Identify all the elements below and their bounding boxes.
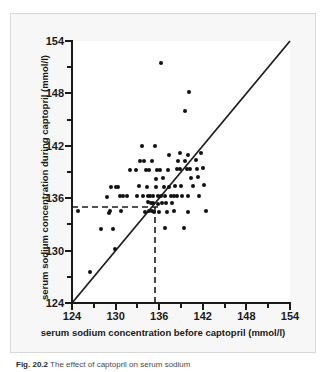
x-axis-tick-label: 148	[237, 310, 255, 322]
x-axis-title: serum sodium concentration before captop…	[0, 327, 326, 338]
data-point	[116, 185, 120, 189]
x-axis-minor-tick	[93, 304, 95, 308]
data-point	[109, 185, 113, 189]
data-point	[182, 226, 186, 230]
plot-area	[72, 41, 290, 303]
data-point	[154, 185, 158, 189]
data-point	[188, 167, 192, 171]
x-axis-minor-tick	[267, 304, 269, 308]
data-point	[195, 167, 199, 171]
data-point	[179, 184, 183, 188]
data-point	[137, 184, 141, 188]
figure-number: Fig. 20.2	[16, 360, 48, 369]
data-point	[191, 184, 195, 188]
data-point	[167, 153, 171, 157]
x-axis-minor-tick	[180, 304, 182, 308]
x-axis-tick-label: 130	[106, 310, 124, 322]
data-point	[111, 227, 115, 231]
data-point	[143, 210, 147, 214]
data-point	[142, 159, 146, 163]
plot-wrapper: 124130136142148154 124130136142148154 se…	[0, 0, 326, 372]
x-axis-tick-label: 154	[281, 310, 299, 322]
figure-caption-text: The effect of captopril on serum sodium	[50, 360, 190, 369]
data-point	[176, 159, 180, 163]
y-axis-title: serum sodium concentration during captop…	[39, 48, 50, 308]
data-point	[162, 185, 166, 189]
data-point	[197, 194, 201, 198]
x-axis-tick-label: 136	[150, 310, 168, 322]
data-point	[201, 166, 205, 170]
x-axis-tick-label: 124	[63, 310, 81, 322]
data-point	[150, 159, 154, 163]
data-point	[186, 194, 190, 198]
data-point	[140, 144, 144, 148]
data-point	[113, 247, 117, 251]
x-axis-tick-label: 142	[194, 310, 212, 322]
data-point	[99, 227, 103, 231]
data-point	[161, 176, 165, 180]
data-point	[145, 185, 149, 189]
x-axis-minor-tick	[136, 304, 138, 308]
figure-caption: Fig. 20.2 The effect of captopril on ser…	[16, 360, 316, 369]
x-axis-minor-tick	[224, 304, 226, 308]
x-axis-line	[71, 302, 291, 304]
data-point	[163, 226, 167, 230]
y-axis-tick-label: 154	[38, 35, 64, 47]
data-point	[178, 167, 182, 171]
data-point	[194, 158, 198, 162]
data-point	[138, 159, 142, 163]
figure-container: 124130136142148154 124130136142148154 se…	[0, 0, 326, 372]
data-point	[187, 90, 191, 94]
y-axis-line	[71, 40, 73, 304]
data-point	[186, 153, 190, 157]
data-point	[153, 144, 157, 148]
